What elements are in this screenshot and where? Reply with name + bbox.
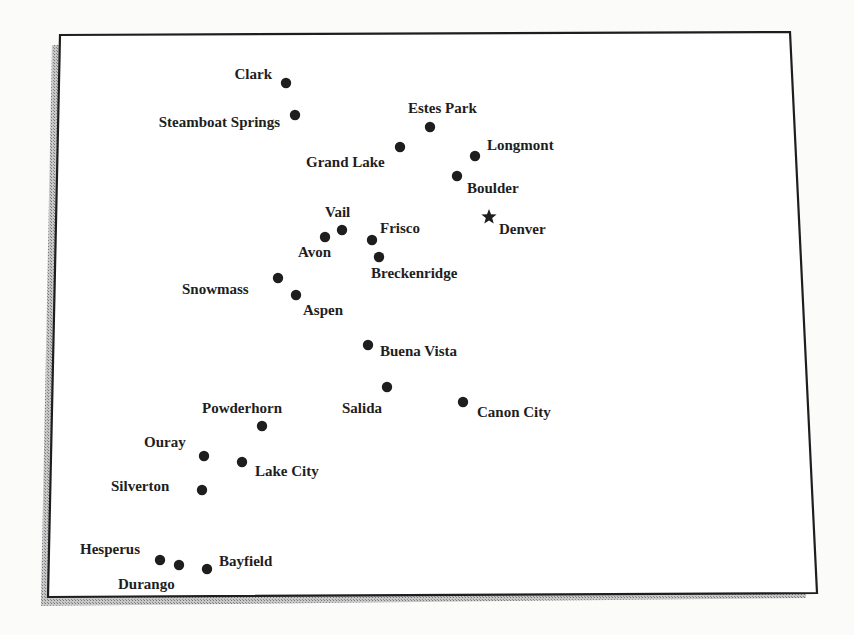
town-label: Aspen [303, 302, 344, 318]
town-dot-icon [197, 485, 207, 495]
town-dot-icon [367, 235, 377, 245]
town-label: Snowmass [182, 281, 249, 297]
town-dot-icon [458, 397, 468, 407]
town-label: Longmont [487, 137, 554, 153]
town-label: Silverton [111, 478, 170, 494]
town-label: Powderhorn [202, 400, 283, 416]
town-label: Clark [235, 66, 273, 82]
town-label: Grand Lake [306, 154, 385, 170]
town-label: Breckenridge [371, 265, 458, 281]
town-dot-icon [337, 225, 347, 235]
town-label: Estes Park [408, 100, 477, 116]
town-dot-icon [374, 252, 384, 262]
town-dot-icon [174, 560, 184, 570]
town-label: Boulder [467, 180, 519, 196]
town-label: Salida [342, 400, 383, 416]
town-dot-icon [281, 78, 291, 88]
town-label: Buena Vista [380, 343, 458, 359]
town-dot-icon [202, 564, 212, 574]
town-label: Canon City [477, 404, 551, 420]
town-dot-icon [273, 273, 283, 283]
town-label: Frisco [380, 220, 420, 236]
town-dot-icon [363, 340, 373, 350]
town-label: Ouray [144, 434, 186, 450]
town-dot-icon [395, 142, 405, 152]
town-label: Durango [118, 576, 175, 592]
town-dot-icon [257, 421, 267, 431]
town-dot-icon [382, 382, 392, 392]
town-label: Bayfield [219, 553, 273, 569]
town-dot-icon [320, 232, 330, 242]
town-dot-icon [237, 457, 247, 467]
town-dot-icon [452, 171, 462, 181]
town-label: Lake City [255, 463, 319, 479]
town-label: Vail [325, 204, 350, 220]
town-label: Steamboat Springs [159, 114, 280, 130]
colorado-map: ClarkSteamboat SpringsEstes ParkGrand La… [0, 0, 854, 635]
town-dot-icon [155, 555, 165, 565]
town-dot-icon [291, 290, 301, 300]
town-dot-icon [290, 110, 300, 120]
town-dot-icon [470, 151, 480, 161]
town-label: Avon [298, 244, 332, 260]
town-dot-icon [199, 451, 209, 461]
town-label: Hesperus [80, 541, 140, 557]
town-dot-icon [425, 122, 435, 132]
capital-label: Denver [499, 221, 546, 237]
